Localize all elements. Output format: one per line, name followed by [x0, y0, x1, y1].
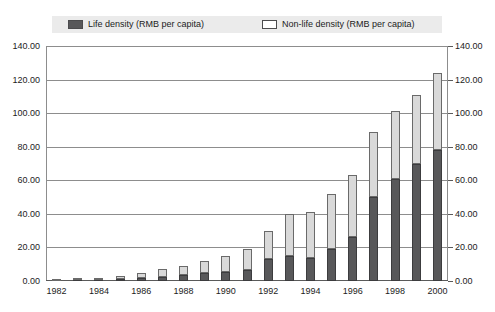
bar-segment-life-density[interactable] — [285, 256, 294, 281]
chart-page: Life density (RMB per capita) Non-life d… — [0, 0, 495, 312]
bar-segment-non-life-density[interactable] — [116, 276, 125, 279]
y-axis-left-tick-label: 20.00 — [17, 243, 40, 252]
bar-segment-non-life-density[interactable] — [243, 249, 252, 270]
y-axis-left-tick-label: 0.00 — [22, 277, 40, 286]
bar-group[interactable] — [73, 279, 82, 281]
bar-group[interactable] — [285, 214, 294, 281]
bar-group[interactable] — [433, 73, 442, 281]
y-axis-right-tick-mark — [448, 113, 453, 114]
bar-segment-non-life-density[interactable] — [137, 273, 146, 279]
bar-segment-life-density[interactable] — [264, 259, 273, 281]
y-axis-left-tick-label: 60.00 — [17, 176, 40, 185]
y-axis-right-tick-label: 20.00 — [455, 243, 478, 252]
bar-group[interactable] — [52, 280, 61, 281]
bar-segment-life-density[interactable] — [306, 258, 315, 282]
bar-group[interactable] — [221, 256, 230, 281]
bar-segment-non-life-density[interactable] — [285, 214, 294, 256]
bar-segment-life-density[interactable] — [243, 270, 252, 281]
y-axis-right-tick-mark — [448, 46, 453, 47]
bar-segment-life-density[interactable] — [221, 272, 230, 281]
bar-group[interactable] — [158, 269, 167, 281]
x-axis-tick-label: 1994 — [300, 287, 320, 296]
x-axis-tick-label: 2000 — [427, 287, 447, 296]
bar-group[interactable] — [264, 231, 273, 281]
legend-label-life-density: Life density (RMB per capita) — [88, 20, 204, 29]
bar-segment-non-life-density[interactable] — [158, 269, 167, 276]
y-axis-left-tick-label: 80.00 — [17, 143, 40, 152]
y-axis-right-tick-label: 0.00 — [455, 277, 473, 286]
bar-segment-non-life-density[interactable] — [327, 194, 336, 249]
y-axis-right-tick-mark — [448, 180, 453, 181]
y-axis-right-tick-label: 140.00 — [455, 42, 483, 51]
bar-segment-life-density[interactable] — [348, 237, 357, 281]
x-axis-tick-label: 1996 — [343, 287, 363, 296]
bar-group[interactable] — [137, 273, 146, 281]
bar-group[interactable] — [369, 132, 378, 281]
y-axis-right-tick-label: 40.00 — [455, 210, 478, 219]
bar-segment-non-life-density[interactable] — [179, 266, 188, 275]
y-axis-left-tick-label: 140.00 — [12, 42, 40, 51]
legend-entry-non-life-density: Non-life density (RMB per capita) — [262, 18, 415, 31]
bar-group[interactable] — [306, 212, 315, 281]
bar-group[interactable] — [391, 111, 400, 281]
legend-entry-life-density: Life density (RMB per capita) — [68, 18, 204, 31]
bar-segment-life-density[interactable] — [433, 150, 442, 281]
cutoff-title-text — [10, 0, 410, 5]
y-axis-left-tick-label: 120.00 — [12, 76, 40, 85]
bar-segment-non-life-density[interactable] — [306, 212, 315, 257]
y-axis-right-tick-label: 80.00 — [455, 143, 478, 152]
y-axis-right-tick-label: 60.00 — [455, 176, 478, 185]
x-axis-tick-label: 1988 — [174, 287, 194, 296]
y-axis-right-tick-mark — [448, 247, 453, 248]
y-axis-right-tick-mark — [448, 214, 453, 215]
bar-segment-non-life-density[interactable] — [264, 231, 273, 260]
bar-segment-non-life-density[interactable] — [433, 73, 442, 150]
bar-segment-non-life-density[interactable] — [369, 132, 378, 197]
plot-area — [46, 46, 448, 281]
bar-segment-life-density[interactable] — [369, 197, 378, 281]
bar-segment-life-density[interactable] — [391, 179, 400, 281]
bar-segment-non-life-density[interactable] — [73, 278, 82, 280]
bar-segment-non-life-density[interactable] — [221, 256, 230, 272]
bar-group[interactable] — [412, 95, 421, 281]
bar-segment-life-density[interactable] — [179, 275, 188, 281]
x-axis-tick-label: 1982 — [47, 287, 67, 296]
y-axis-right-tick-label: 120.00 — [455, 76, 483, 85]
legend-label-non-life-density: Non-life density (RMB per capita) — [282, 20, 415, 29]
x-axis-tick-label: 1992 — [258, 287, 278, 296]
bar-group[interactable] — [243, 249, 252, 281]
y-axis-left-tick-label: 100.00 — [12, 109, 40, 118]
bar-group[interactable] — [200, 261, 209, 281]
bar-segment-non-life-density[interactable] — [348, 175, 357, 237]
x-axis-tick-label: 1984 — [89, 287, 109, 296]
bar-segment-life-density[interactable] — [200, 273, 209, 281]
bar-segment-non-life-density[interactable] — [52, 279, 61, 281]
bar-segment-life-density[interactable] — [158, 277, 167, 281]
y-axis-left-tick-label: 40.00 — [17, 210, 40, 219]
legend-swatch-life-density — [68, 20, 83, 29]
bar-group[interactable] — [94, 278, 103, 281]
bar-segment-non-life-density[interactable] — [391, 111, 400, 178]
x-axis-tick-label: 1990 — [216, 287, 236, 296]
x-axis-tick-label: 1998 — [385, 287, 405, 296]
bar-segment-non-life-density[interactable] — [200, 261, 209, 273]
y-axis-right-tick-mark — [448, 147, 453, 148]
y-axis-right-tick-label: 100.00 — [455, 109, 483, 118]
bar-series-container — [46, 46, 448, 281]
bar-group[interactable] — [327, 194, 336, 281]
x-axis-tick-label: 1986 — [131, 287, 151, 296]
bar-segment-life-density[interactable] — [412, 164, 421, 282]
y-axis-right-tick-mark — [448, 281, 453, 282]
bar-group[interactable] — [179, 266, 188, 281]
bar-group[interactable] — [116, 276, 125, 281]
y-axis-right-tick-mark — [448, 80, 453, 81]
bar-segment-non-life-density[interactable] — [412, 95, 421, 164]
bar-segment-life-density[interactable] — [137, 278, 146, 281]
bar-group[interactable] — [348, 175, 357, 281]
bar-segment-non-life-density[interactable] — [94, 278, 103, 280]
bar-segment-life-density[interactable] — [327, 249, 336, 281]
legend-swatch-non-life-density — [262, 20, 277, 29]
